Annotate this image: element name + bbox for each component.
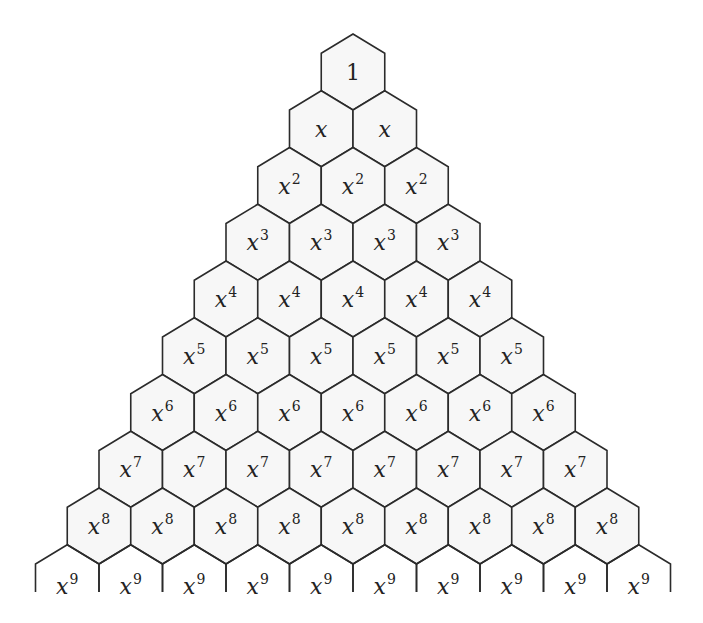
hex-pyramid-diagram: 1xxx2x2x2x3x3x3x3x4x4x4x4x4x5x5x5x5x5x5x… [0, 0, 703, 623]
hex-label: x9 [628, 571, 650, 599]
hex-label: x9 [501, 571, 523, 599]
hex-label: x9 [374, 571, 396, 599]
hex-label: x [379, 117, 392, 142]
hex-pyramid-svg: 1xxx2x2x2x3x3x3x3x4x4x4x4x4x5x5x5x5x5x5x… [0, 0, 703, 623]
hex-label: x9 [437, 571, 459, 599]
hex-label: x9 [56, 571, 78, 599]
hex-label: x9 [310, 571, 332, 599]
hex-label: x9 [183, 571, 205, 599]
hex-label: x9 [120, 571, 142, 599]
hex-label: x9 [247, 571, 269, 599]
hex-label: 1 [346, 60, 360, 85]
hex-label: x9 [564, 571, 586, 599]
hex-label: x [315, 117, 328, 142]
hex-cells: 1xxx2x2x2x3x3x3x3x4x4x4x4x4x5x5x5x5x5x5x… [36, 34, 671, 599]
